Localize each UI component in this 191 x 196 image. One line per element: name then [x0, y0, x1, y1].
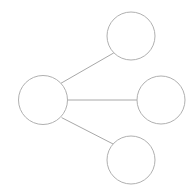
edge-hub-top[interactable]	[61, 53, 114, 83]
graph-svg	[0, 0, 191, 196]
diagram-canvas	[0, 0, 191, 196]
node-layer	[19, 12, 186, 184]
graph-node-top[interactable]	[107, 12, 155, 60]
graph-node-hub[interactable]	[19, 76, 68, 125]
graph-node-bottom[interactable]	[107, 136, 155, 184]
edge-hub-bottom[interactable]	[62, 118, 114, 145]
graph-node-right[interactable]	[137, 76, 185, 124]
edge-layer	[61, 53, 137, 144]
